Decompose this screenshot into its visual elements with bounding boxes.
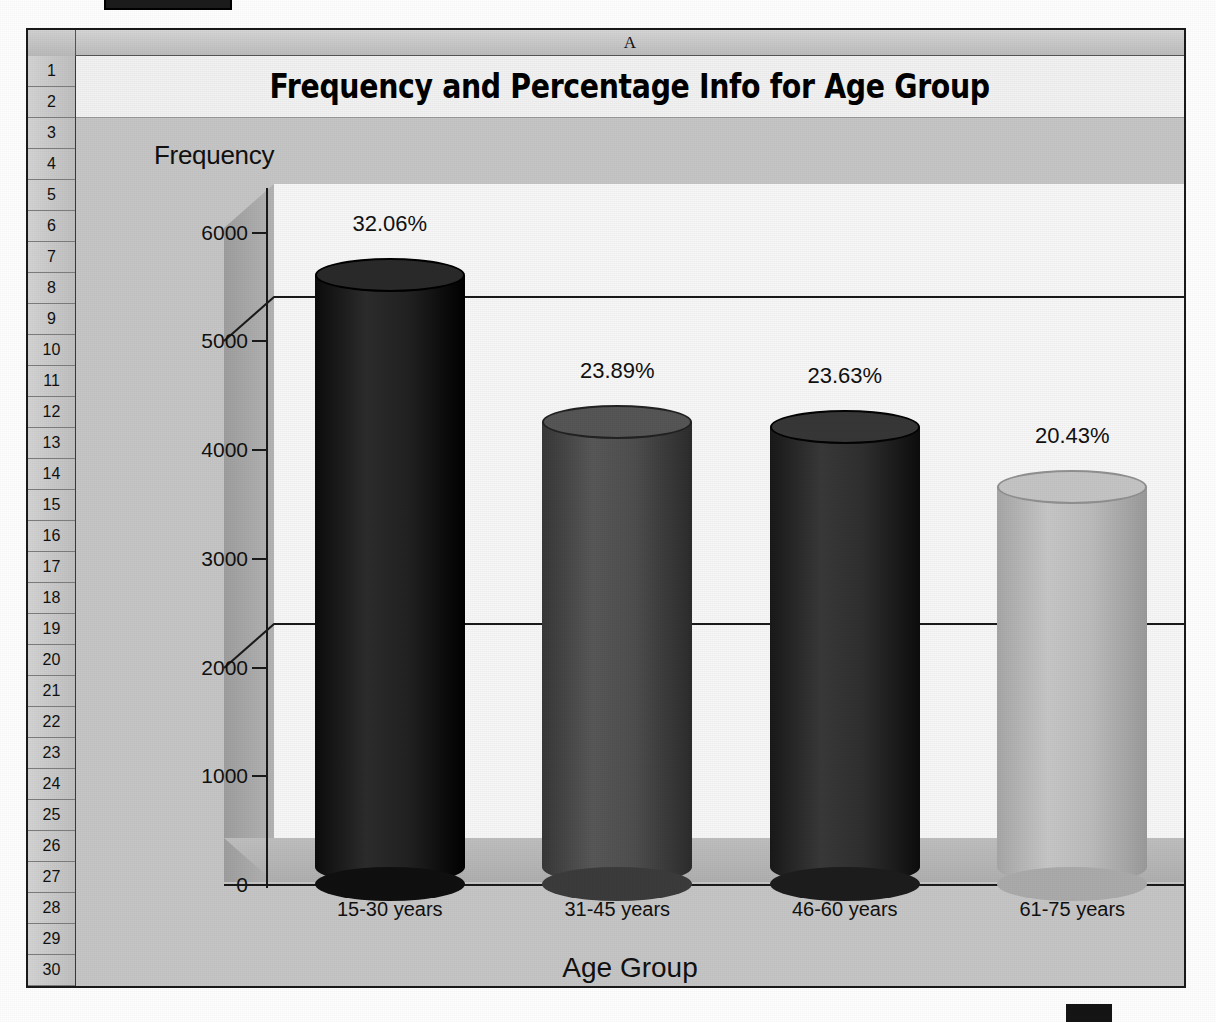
row-header-cell[interactable]: 5 — [28, 180, 75, 211]
y-axis-tick-label: 5000 — [158, 329, 248, 353]
row-header-cell[interactable]: 1 — [28, 56, 75, 87]
row-header-cell[interactable]: 22 — [28, 707, 75, 738]
spreadsheet-frame: A 12345678910111213141516171819202122232… — [26, 28, 1186, 988]
row-header-cell[interactable]: 2 — [28, 87, 75, 118]
x-axis-category-label: 31-45 years — [507, 898, 727, 921]
y-axis-title: Frequency — [154, 140, 274, 171]
row-header-cell[interactable]: 25 — [28, 800, 75, 831]
row-header-cell[interactable]: 4 — [28, 149, 75, 180]
x-axis-category-label: 15-30 years — [280, 898, 500, 921]
bar-cylinder[interactable] — [997, 487, 1147, 884]
cylinder-body — [542, 422, 692, 884]
row-header-cell[interactable]: 17 — [28, 552, 75, 583]
bar-cylinder[interactable] — [770, 427, 920, 884]
row-header-cell[interactable]: 6 — [28, 211, 75, 242]
cylinder-body — [997, 487, 1147, 884]
cylinder-body — [315, 275, 465, 884]
row-header-cell[interactable]: 20 — [28, 645, 75, 676]
page-title: Frequency and Percentage Info for Age Gr… — [270, 67, 990, 106]
bar-cylinder[interactable] — [315, 275, 465, 884]
row-header-cell[interactable]: 15 — [28, 490, 75, 521]
row-header-cell[interactable]: 3 — [28, 118, 75, 149]
row-header-cell[interactable]: 10 — [28, 335, 75, 366]
y-axis-line — [266, 188, 268, 888]
bar-data-label: 23.63% — [755, 363, 935, 389]
cylinder-top-ellipse — [315, 258, 465, 292]
row-header-cell[interactable]: 7 — [28, 242, 75, 273]
x-axis-title: Age Group — [76, 952, 1184, 984]
column-header-band: A — [28, 30, 1184, 56]
bar-data-label: 32.06% — [300, 211, 480, 237]
cylinder-body — [770, 427, 920, 884]
column-header-a[interactable]: A — [76, 30, 1184, 56]
screenshot-root: A 12345678910111213141516171819202122232… — [0, 0, 1216, 1022]
bar-cylinder[interactable] — [542, 422, 692, 884]
row-header-cell[interactable]: 23 — [28, 738, 75, 769]
row-header-cell[interactable]: 8 — [28, 273, 75, 304]
bar-data-label: 20.43% — [982, 423, 1162, 449]
y-axis-tick-label: 3000 — [158, 547, 248, 571]
cylinder-top-ellipse — [542, 405, 692, 439]
cylinder-bottom-ellipse — [315, 867, 465, 901]
chart-title-band: Frequency and Percentage Info for Age Gr… — [76, 56, 1184, 118]
row-header-cell[interactable]: 11 — [28, 366, 75, 397]
row-header-cell[interactable]: 30 — [28, 955, 75, 986]
chart-object[interactable]: Frequency 6000500040003000200010000 32.0… — [76, 118, 1184, 986]
y-axis-tick — [252, 558, 266, 560]
x-axis-category-label: 46-60 years — [735, 898, 955, 921]
row-header-cell[interactable]: 24 — [28, 769, 75, 800]
bottom-edge-artifact — [1066, 1004, 1112, 1022]
row-header-cell[interactable]: 12 — [28, 397, 75, 428]
y-axis-tick — [252, 775, 266, 777]
y-axis-tick — [252, 340, 266, 342]
y-axis-tick — [252, 232, 266, 234]
row-header-cell[interactable]: 18 — [28, 583, 75, 614]
row-header-cell[interactable]: 26 — [28, 831, 75, 862]
row-header-cell[interactable]: 13 — [28, 428, 75, 459]
y-axis-tick-label: 4000 — [158, 438, 248, 462]
row-header-cell[interactable]: 14 — [28, 459, 75, 490]
row-header-cell[interactable]: 19 — [28, 614, 75, 645]
y-axis-tick-label: 6000 — [158, 221, 248, 245]
cylinder-bottom-ellipse — [770, 867, 920, 901]
row-header-cell[interactable]: 9 — [28, 304, 75, 335]
cylinder-bottom-ellipse — [997, 867, 1147, 901]
cylinder-bottom-ellipse — [542, 867, 692, 901]
y-axis-tick-label: 2000 — [158, 656, 248, 680]
row-header-cell[interactable]: 28 — [28, 893, 75, 924]
row-header-cell[interactable]: 21 — [28, 676, 75, 707]
row-header-cell[interactable]: 27 — [28, 862, 75, 893]
row-header-cell[interactable]: 16 — [28, 521, 75, 552]
grid-body: Frequency and Percentage Info for Age Gr… — [76, 56, 1184, 986]
row-header-strip: 1234567891011121314151617181920212223242… — [28, 56, 76, 986]
cylinder-top-ellipse — [997, 470, 1147, 504]
y-axis-tick — [252, 667, 266, 669]
y-axis-tick-label: 1000 — [158, 764, 248, 788]
x-axis-category-label: 61-75 years — [962, 898, 1182, 921]
y-axis-tick — [252, 449, 266, 451]
bar-data-label: 23.89% — [527, 358, 707, 384]
top-edge-artifact — [104, 0, 232, 10]
row-header-cell[interactable]: 29 — [28, 924, 75, 955]
select-all-corner[interactable] — [28, 30, 76, 56]
cylinder-top-ellipse — [770, 410, 920, 444]
